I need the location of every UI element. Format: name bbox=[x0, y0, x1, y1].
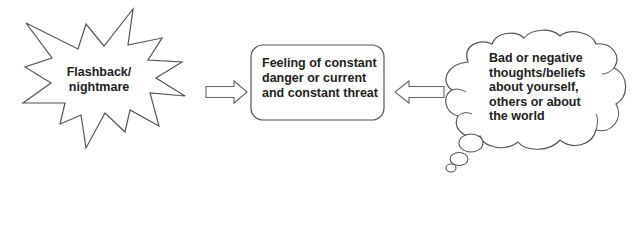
thoughts-line-4: others or about bbox=[489, 95, 609, 110]
flashback-line-1: Flashback/ bbox=[60, 65, 138, 80]
thoughts-line-5: the world bbox=[489, 109, 609, 124]
thoughts-line-1: Bad or negative bbox=[489, 51, 609, 66]
danger-line-2: danger or current bbox=[262, 71, 382, 86]
thoughts-label: Bad or negative thoughts/beliefs about y… bbox=[489, 51, 609, 124]
thought-bubble-small bbox=[446, 164, 456, 172]
thoughts-line-2: thoughts/beliefs bbox=[489, 66, 609, 81]
flashback-label: Flashback/ nightmare bbox=[60, 65, 138, 95]
thought-bubble-large bbox=[459, 134, 483, 152]
thought-bubble-medium bbox=[450, 153, 468, 166]
thoughts-line-3: about yourself, bbox=[489, 80, 609, 95]
danger-line-1: Feeling of constant bbox=[262, 56, 382, 71]
arrow-left-icon bbox=[395, 81, 444, 103]
danger-line-3: and constant threat bbox=[262, 86, 382, 101]
arrow-right-icon bbox=[206, 81, 247, 103]
danger-label: Feeling of constant danger or current an… bbox=[262, 56, 382, 101]
flashback-line-2: nightmare bbox=[60, 80, 138, 95]
